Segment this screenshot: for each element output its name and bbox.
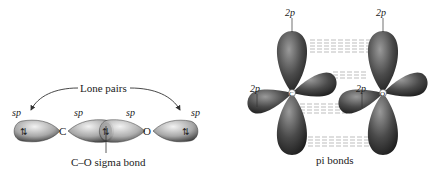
2p-label-oxygen-horizontal: 2p (356, 83, 366, 94)
sp-label-3: sp (126, 107, 135, 118)
2p-label-carbon-vertical: 2p (285, 7, 295, 18)
sigma-bond-label: C–O sigma bond (71, 156, 146, 168)
electron-pair-icon: ⇅ (20, 127, 28, 137)
sp-label-4: sp (191, 107, 200, 118)
2p-label-carbon-horizontal: 2p (250, 83, 260, 94)
oxygen-lone-pair-lobe (153, 120, 198, 142)
pi-panel: C O 2p 2p 2p 2p pi bonds (247, 7, 427, 166)
electron-pair-icon: ⇅ (182, 127, 190, 137)
lone-pairs-label: Lone pairs (80, 82, 127, 94)
lone-pair-arrow-right (130, 88, 180, 110)
oxygen-p-orbitals: O (338, 31, 427, 155)
oxygen-atom-label: O (143, 125, 151, 137)
carbon-atom-label: C (289, 90, 294, 98)
oxygen-atom-label: O (380, 90, 385, 98)
sigma-panel: Lone pairs sp sp sp sp ⇅ C ⇅ O ⇅ C–O sig… (12, 82, 200, 168)
lone-pair-arrow-left (31, 88, 78, 110)
2p-label-oxygen-vertical: 2p (376, 7, 386, 18)
sp-label-1: sp (12, 107, 21, 118)
carbon-p-orbitals: C (247, 31, 336, 155)
carbon-atom-label: C (59, 125, 66, 137)
co-orbital-diagram: Lone pairs sp sp sp sp ⇅ C ⇅ O ⇅ C–O sig… (0, 0, 441, 184)
sp-label-2: sp (74, 107, 83, 118)
pi-bonds-label: pi bonds (316, 154, 354, 166)
